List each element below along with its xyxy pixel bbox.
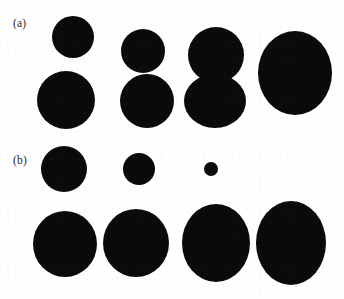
blob-column-2	[103, 153, 169, 277]
panel-label-b: (b)	[13, 155, 27, 167]
blob-bottom-circle	[184, 74, 246, 128]
blob-bottom-circle	[33, 211, 97, 277]
blob-top-circle	[123, 153, 155, 185]
blob-bottom-circle	[120, 74, 174, 128]
blob-column-2	[120, 29, 174, 128]
blob-column-4	[258, 31, 332, 115]
blob-shapes-layer	[0, 0, 344, 299]
panel-a-shapes	[37, 16, 332, 129]
blob-top-circle	[121, 29, 165, 73]
blob-column-3	[182, 162, 250, 282]
blob-top-circle	[204, 162, 218, 176]
blob-column-3	[184, 27, 246, 128]
blob-top-circle	[41, 146, 87, 192]
blob-bottom-circle	[182, 204, 250, 282]
panel-label-a: (a)	[13, 18, 26, 30]
blob-column-4	[256, 201, 326, 285]
blob-bottom-circle	[37, 71, 95, 129]
blob-top-circle	[52, 16, 94, 58]
blob-bottom-circle	[103, 209, 169, 277]
blob-column-1	[33, 146, 97, 277]
figure-canvas: (a) (b)	[0, 0, 344, 299]
panel-b-shapes	[33, 146, 326, 285]
blob-bottom-circle	[256, 201, 326, 285]
blob-column-1	[37, 16, 95, 129]
blob-merged-ellipse	[258, 31, 332, 115]
